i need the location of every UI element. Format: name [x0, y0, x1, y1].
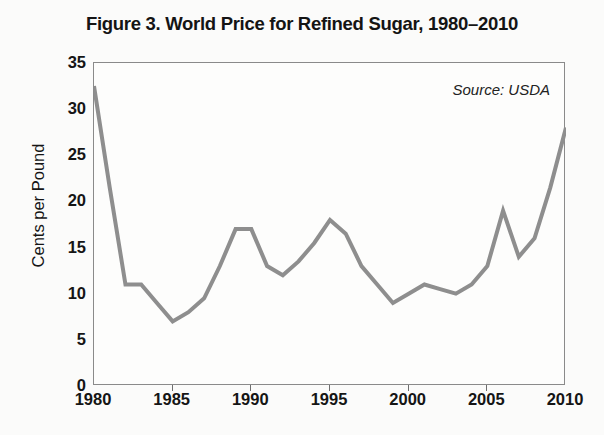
x-tick-label: 2000	[373, 391, 443, 408]
y-tick-label: 5	[46, 331, 86, 348]
data-series-line	[94, 86, 566, 321]
figure-container: Figure 3. World Price for Refined Sugar,…	[0, 0, 604, 435]
y-tick-label: 10	[46, 284, 86, 301]
x-tick-label: 1990	[215, 391, 285, 408]
x-tick-label: 1980	[58, 391, 128, 408]
page-title: Figure 3. World Price for Refined Sugar,…	[0, 13, 604, 35]
x-tick-label: 1985	[137, 391, 207, 408]
x-tick-label: 1995	[294, 391, 364, 408]
x-tick-label: 2010	[530, 391, 600, 408]
y-tick-label: 20	[46, 192, 86, 209]
y-tick-label: 30	[46, 100, 86, 117]
y-tick-label: 35	[46, 54, 86, 71]
y-tick-label: 25	[46, 146, 86, 163]
source-annotation: Source: USDA	[452, 81, 550, 98]
plot-area: Source: USDA	[93, 62, 565, 385]
y-axis-tick-labels: 35 30 25 20 15 10 5 0	[42, 0, 86, 435]
x-tick-label: 2005	[451, 391, 521, 408]
y-tick-label: 15	[46, 238, 86, 255]
y-axis-title: Cents per Pound	[29, 86, 48, 326]
line-chart-svg	[94, 63, 566, 386]
